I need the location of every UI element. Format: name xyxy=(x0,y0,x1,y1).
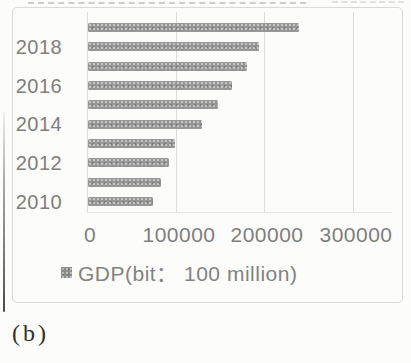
x-axis-line xyxy=(87,212,392,213)
chart-legend: GDP(bit： 100 million) xyxy=(61,262,297,282)
legend-swatch-icon xyxy=(61,267,72,278)
bar-2015 xyxy=(88,100,218,109)
scan-artifact-left-edge xyxy=(3,112,5,312)
figure-panel-label: (b) xyxy=(12,320,49,347)
scan-artifact-top-right xyxy=(332,1,404,3)
y-tick-label-2018: 2018 xyxy=(14,36,64,58)
bar-2017 xyxy=(88,62,247,71)
bar-2016 xyxy=(88,81,232,90)
legend-label: GDP(bit： 100 million) xyxy=(78,257,297,287)
bar-2014 xyxy=(88,120,202,129)
bar-2011 xyxy=(88,178,161,187)
y-tick-label-2014: 2014 xyxy=(14,113,64,135)
bar-2010 xyxy=(88,197,153,206)
bar-2012 xyxy=(88,158,169,167)
y-tick-label-2012: 2012 xyxy=(14,152,64,174)
x-tick-label-200000: 200000 xyxy=(219,224,315,246)
scan-artifact-top xyxy=(28,2,306,4)
bar-2019 xyxy=(88,23,299,32)
gridline-x-300000 xyxy=(353,12,354,212)
y-tick-label-2010: 2010 xyxy=(14,191,64,213)
x-tick-label-0: 0 xyxy=(42,224,138,246)
gridline-x-200000 xyxy=(264,12,265,212)
x-tick-label-300000: 300000 xyxy=(308,224,404,246)
bar-2013 xyxy=(88,139,175,148)
y-tick-label-2016: 2016 xyxy=(14,75,64,97)
bar-2018 xyxy=(88,42,259,51)
x-tick-label-100000: 100000 xyxy=(131,224,227,246)
